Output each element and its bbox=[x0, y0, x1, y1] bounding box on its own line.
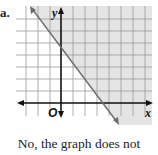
x-axis-label: x bbox=[144, 106, 151, 120]
caption-line-1: No, the graph does not bbox=[0, 136, 158, 152]
caption-line-2: represent a function, b bbox=[0, 152, 158, 155]
y-axis-label: y bbox=[50, 6, 58, 20]
inequality-graph: y x O bbox=[0, 0, 158, 135]
origin-label: O bbox=[48, 106, 58, 120]
